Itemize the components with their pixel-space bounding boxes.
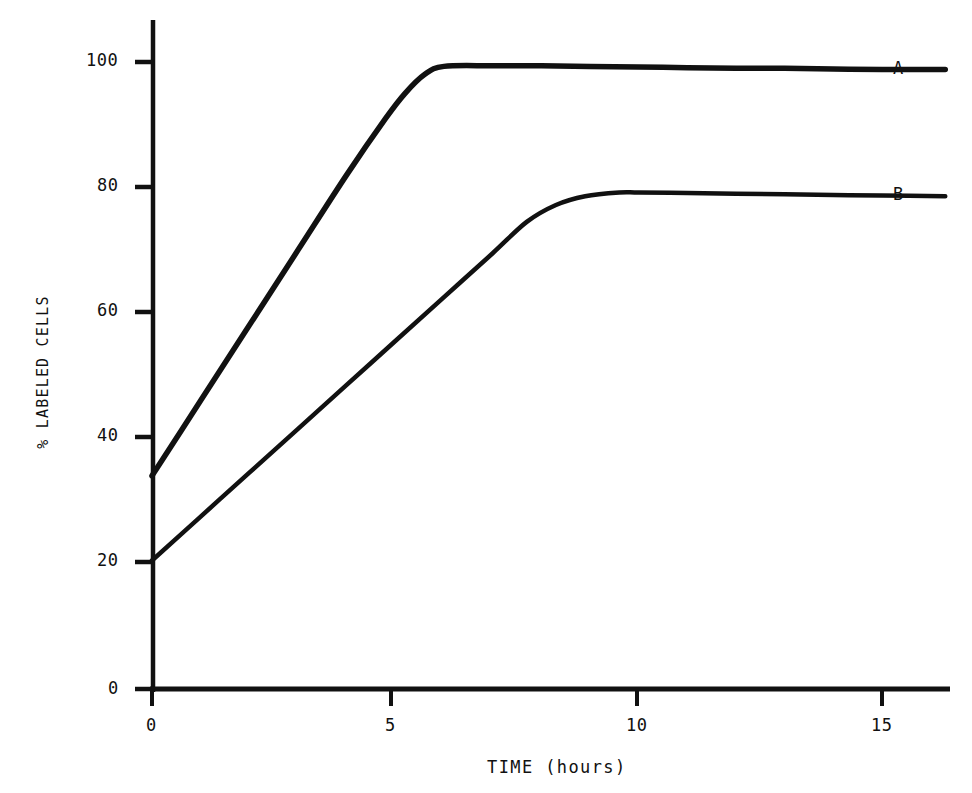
chart-figure: % LABELED CELLS 100 80 60 40 20 0 0 5 10… bbox=[0, 0, 972, 793]
y-tick-label-100: 100 bbox=[86, 50, 118, 70]
y-tick-label-40: 40 bbox=[97, 425, 118, 445]
x-tick-label-15: 15 bbox=[871, 715, 892, 735]
chart-plot-area: % LABELED CELLS bbox=[0, 0, 972, 793]
x-tick-label-10: 10 bbox=[626, 715, 647, 735]
series-a-end-label: A bbox=[893, 58, 903, 78]
series-b-end-label: B bbox=[893, 184, 903, 204]
y-tick-label-60: 60 bbox=[97, 300, 118, 320]
y-tick-label-20: 20 bbox=[97, 550, 118, 570]
x-axis-ticks bbox=[152, 689, 882, 706]
series-a-line bbox=[152, 66, 945, 476]
y-tick-label-0: 0 bbox=[108, 678, 119, 698]
x-axis-title: TIME (hours) bbox=[487, 757, 627, 777]
series-b-line bbox=[152, 192, 945, 560]
y-tick-label-80: 80 bbox=[97, 175, 118, 195]
x-tick-label-5: 5 bbox=[385, 715, 396, 735]
x-tick-label-0: 0 bbox=[146, 715, 157, 735]
y-axis-title: % LABELED CELLS bbox=[34, 295, 52, 448]
